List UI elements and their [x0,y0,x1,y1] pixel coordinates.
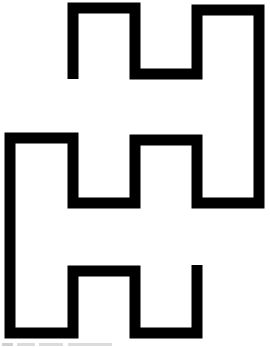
hilbert-curve-figure [0,0,270,347]
hilbert-curve-path [10,8,259,333]
cropped-caption-text [2,341,112,347]
